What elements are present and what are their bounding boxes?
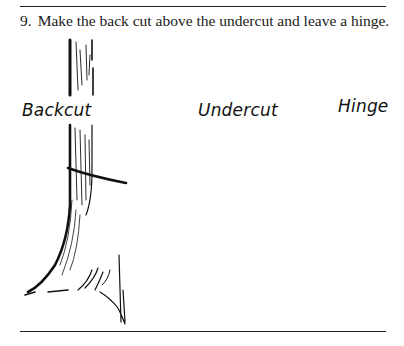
felling-illustration <box>0 0 404 346</box>
undercut-label: Undercut <box>198 100 278 120</box>
backcut-label: Backcut <box>22 100 91 120</box>
tree-left <box>25 40 126 324</box>
bottom-rule <box>20 331 386 332</box>
hinge-label: Hinge <box>338 96 389 116</box>
